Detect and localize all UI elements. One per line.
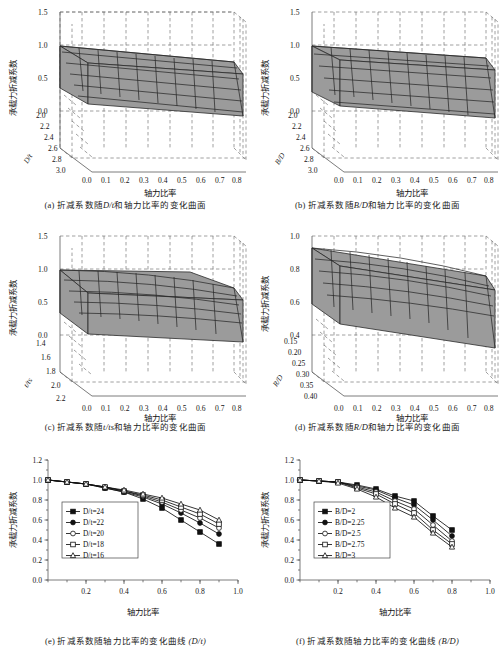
- panel-b-caption-prefix: (b): [295, 200, 306, 210]
- svg-text:0.4: 0.4: [158, 404, 168, 413]
- panel-c-zaxis-label: 承载力折减系数: [8, 279, 18, 336]
- svg-text:1.5: 1.5: [38, 8, 48, 17]
- x-tick-label: 0.4: [371, 587, 381, 596]
- panel-a-caption-symbol: D/t: [103, 200, 114, 210]
- svg-text:0.1: 0.1: [353, 176, 363, 185]
- panel-d-z-ticks: 1.0 0.8 0.6 0.4: [290, 232, 300, 340]
- panel-f-caption: (f) 折减系数随轴力比率的变化曲线 (B/D): [252, 634, 503, 646]
- svg-text:0.35: 0.35: [300, 381, 313, 390]
- svg-text:0.6: 0.6: [290, 298, 300, 307]
- svg-text:0.2: 0.2: [372, 404, 382, 413]
- legend-label: B/D=2: [335, 507, 355, 516]
- panel-d-plot: 1.0 0.8 0.6 0.4 0.15 0.20 0.25 0.30 0.35…: [252, 224, 503, 422]
- svg-text:0.8: 0.8: [232, 404, 242, 413]
- svg-text:0.3: 0.3: [139, 404, 149, 413]
- x-axis-label: 轴力比率: [127, 607, 159, 617]
- panel-b-plot: 1.5 1.0 0.5 0.0 2.0 2.2 2.4 2.6 2.8 3.0 …: [252, 0, 503, 200]
- panel-c-surface-mesh: [60, 270, 243, 342]
- svg-text:0.7: 0.7: [215, 404, 225, 413]
- y-tick-label: 1.0: [33, 476, 43, 485]
- panel-b-surface-mesh: [312, 46, 495, 118]
- svg-text:0.5: 0.5: [38, 298, 48, 307]
- panel-a-xaxis-label: 轴力比率: [144, 188, 176, 198]
- svg-text:1.6: 1.6: [41, 353, 51, 362]
- svg-text:2.8: 2.8: [304, 155, 314, 164]
- x-tick-label: 1.0: [233, 587, 243, 596]
- svg-text:0.2: 0.2: [120, 176, 130, 185]
- panel-a-caption-text2: 和轴力比率的变化曲面: [114, 200, 206, 210]
- panel-e-caption-text1: 折减系数随轴力比率的变化曲线: [57, 636, 186, 646]
- svg-text:0.8: 0.8: [484, 404, 494, 413]
- panel-c-surface-chart: 1.5 1.0 0.5 0.0 1.4 1.6 1.8 2.0 2.2 0.0 …: [0, 224, 251, 446]
- panel-b-surface-chart: 1.5 1.0 0.5 0.0 2.0 2.2 2.4 2.6 2.8 3.0 …: [252, 0, 503, 225]
- svg-text:0.15: 0.15: [284, 337, 297, 346]
- svg-text:3.0: 3.0: [56, 166, 66, 175]
- svg-text:0.5: 0.5: [429, 404, 439, 413]
- panel-b-xaxis-label: 轴力比率: [396, 188, 428, 198]
- panel-d-caption-prefix: (d): [295, 422, 306, 432]
- panel-a-surface-mesh: [60, 46, 243, 116]
- x-tick-label: 0.6: [157, 587, 167, 596]
- data-point-marker: [323, 520, 328, 525]
- panel-c-yaxis-label: t/ts: [22, 376, 35, 389]
- panel-a-x-ticks: 0.0 0.1 0.2 0.3 0.4 0.5 0.6 0.7 0.8: [82, 176, 242, 185]
- panel-b-x-ticks: 0.0 0.1 0.2 0.3 0.4 0.5 0.6 0.7 0.8: [334, 176, 494, 185]
- svg-text:2.4: 2.4: [296, 133, 306, 142]
- panel-a-surface-chart: 1.5 1.0 0.5 0.0 2.0 2.2 2.4 2.6 2.8 3.0 …: [0, 0, 251, 225]
- panel-c-z-ticks: 1.5 1.0 0.5 0.0: [38, 232, 48, 340]
- svg-text:0.0: 0.0: [82, 176, 92, 185]
- panel-e-plot: 0.00.20.40.60.81.01.20.20.40.60.81.0承载力折…: [0, 446, 251, 636]
- svg-text:0.1: 0.1: [101, 176, 111, 185]
- data-point-marker: [323, 531, 328, 536]
- panel-e-line-chart: 0.00.20.40.60.81.01.20.20.40.60.81.0承载力折…: [0, 446, 251, 662]
- panel-b-caption-symbol: B/D: [354, 200, 368, 210]
- svg-text:0.3: 0.3: [391, 176, 401, 185]
- data-point-marker: [450, 528, 455, 533]
- data-point-marker: [217, 532, 222, 537]
- data-point-marker: [431, 523, 436, 528]
- svg-text:0.5: 0.5: [290, 74, 300, 83]
- panel-d-x-ticks: 0.0 0.1 0.2 0.3 0.4 0.5 0.6 0.7 0.8: [334, 404, 494, 413]
- legend-label: B/D=3: [335, 551, 355, 560]
- y-tick-label: 0.0: [285, 576, 295, 585]
- panel-c-y-ticks: 1.4 1.6 1.8 2.0 2.2: [36, 339, 66, 403]
- panel-f-caption-text1: 折减系数随轴力比率的变化曲线: [307, 636, 436, 646]
- svg-text:2.0: 2.0: [288, 111, 298, 120]
- svg-text:0.7: 0.7: [215, 176, 225, 185]
- data-point-marker: [71, 520, 76, 525]
- x-tick-label: 0.2: [81, 587, 91, 596]
- panel-c-x-ticks: 0.0 0.1 0.2 0.3 0.4 0.5 0.6 0.7 0.8: [82, 404, 242, 413]
- svg-text:2.2: 2.2: [40, 122, 50, 131]
- y-tick-label: 0.8: [285, 496, 295, 505]
- panel-d-caption: (d) 折减系数随R/D和轴力比率的变化曲面: [252, 420, 503, 432]
- svg-text:0.6: 0.6: [196, 176, 206, 185]
- legend-label: B/D=2.25: [335, 518, 365, 527]
- svg-text:1.0: 1.0: [38, 41, 48, 50]
- svg-text:0.2: 0.2: [372, 176, 382, 185]
- data-point-marker: [71, 509, 76, 514]
- svg-text:1.0: 1.0: [290, 232, 300, 241]
- figure-grid: 1.5 1.0 0.5 0.0 2.0 2.2 2.4 2.6 2.8 3.0 …: [0, 0, 503, 662]
- svg-text:1.5: 1.5: [290, 8, 300, 17]
- y-tick-label: 0.0: [33, 576, 43, 585]
- svg-text:2.0: 2.0: [51, 381, 61, 390]
- svg-text:2.0: 2.0: [36, 111, 46, 120]
- y-axis-label: 承载力折减系数: [8, 491, 18, 548]
- svg-text:0.6: 0.6: [448, 176, 458, 185]
- panel-a-caption: (a) 折减系数随D/t和轴力比率的变化曲面: [0, 198, 251, 210]
- x-tick-label: 0.4: [119, 587, 129, 596]
- svg-text:0.5: 0.5: [429, 176, 439, 185]
- y-axis-label: 承载力折减系数: [260, 491, 270, 548]
- svg-text:2.4: 2.4: [44, 133, 54, 142]
- panel-c-caption-symbol: t/ts: [103, 422, 114, 432]
- panel-c-caption-text2: 和轴力比率的变化曲面: [114, 422, 206, 432]
- svg-text:0.4: 0.4: [410, 404, 420, 413]
- panel-b-z-ticks: 1.5 1.0 0.5 0.0: [290, 8, 300, 116]
- panel-d-caption-text1: 折减系数随: [308, 422, 354, 432]
- svg-text:0.6: 0.6: [196, 404, 206, 413]
- svg-text:0.8: 0.8: [232, 176, 242, 185]
- panel-c-plot: 1.5 1.0 0.5 0.0 1.4 1.6 1.8 2.0 2.2 0.0 …: [0, 224, 251, 422]
- svg-text:3.0: 3.0: [308, 166, 318, 175]
- data-point-marker: [216, 517, 221, 522]
- x-tick-label: 0.8: [447, 587, 457, 596]
